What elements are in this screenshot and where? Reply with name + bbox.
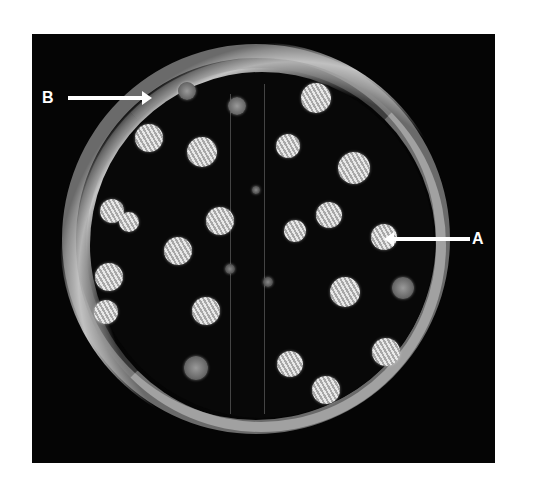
- colony: [392, 277, 414, 299]
- arrow-a-icon: [392, 237, 470, 241]
- colony: [330, 277, 360, 307]
- colony: [164, 237, 192, 265]
- colony: [178, 82, 196, 100]
- colony: [252, 186, 260, 194]
- colony: [228, 97, 246, 115]
- colony: [312, 376, 340, 404]
- petri-dish-photo: B A: [32, 34, 495, 463]
- colony: [277, 351, 303, 377]
- colony: [284, 220, 306, 242]
- colony: [301, 83, 331, 113]
- colony: [263, 277, 273, 287]
- colony: [184, 356, 208, 380]
- colony: [276, 134, 300, 158]
- plate-divider-line: [264, 84, 265, 414]
- colony: [95, 263, 123, 291]
- colony: [225, 264, 235, 274]
- colony: [338, 152, 370, 184]
- colony: [187, 137, 217, 167]
- colony: [206, 207, 234, 235]
- colony: [192, 297, 220, 325]
- label-b: B: [42, 90, 54, 106]
- arrow-b-icon: [68, 96, 144, 100]
- colony: [372, 338, 400, 366]
- colony: [94, 300, 118, 324]
- colony: [119, 212, 139, 232]
- plate-divider-line: [230, 94, 231, 414]
- colony: [316, 202, 342, 228]
- colony: [135, 124, 163, 152]
- label-a: A: [472, 231, 484, 247]
